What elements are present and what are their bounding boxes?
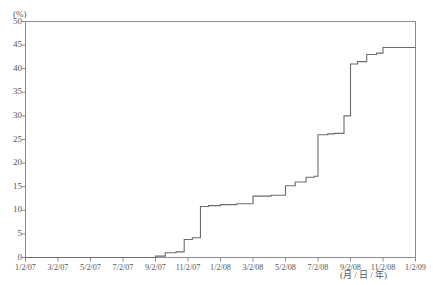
chart-container: (%) (月 / 日 / 年) 05101520253035404550 1/2… <box>0 0 433 285</box>
plot-border <box>26 22 416 258</box>
plot-area <box>0 0 433 285</box>
data-series-line <box>26 47 416 257</box>
x-axis-ticks <box>26 258 416 262</box>
axes-frame <box>26 22 416 258</box>
y-axis-ticks <box>22 22 26 258</box>
